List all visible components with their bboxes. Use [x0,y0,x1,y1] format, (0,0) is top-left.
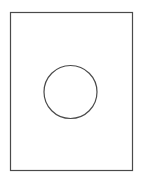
inner-circle [44,66,97,119]
outer-frame-rectangle [11,13,133,171]
diagram-canvas [0,0,146,182]
diagram-svg [0,0,146,182]
